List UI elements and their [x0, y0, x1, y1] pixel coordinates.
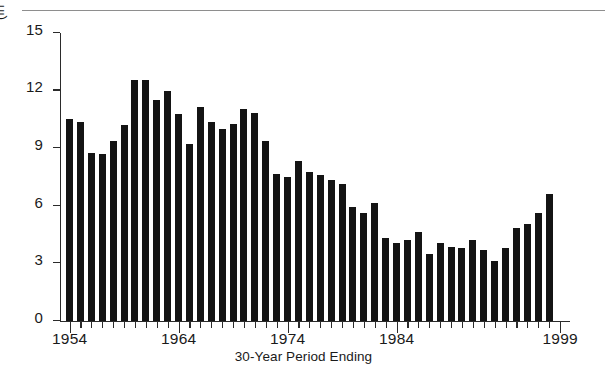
x-axis-label-1999: 1999 [543, 330, 578, 347]
x-axis-tick-labels: 19541964197419841999 [0, 0, 607, 368]
x-axis-label-1964: 1964 [161, 330, 196, 347]
x-axis-label-1984: 1984 [379, 330, 414, 347]
equity-risk-premium-chart: 03691215 19541964197419841999 30-Year Pe… [0, 0, 607, 368]
x-axis-label-1954: 1954 [52, 330, 87, 347]
x-axis-label-1974: 1974 [270, 330, 305, 347]
x-axis-title: 30-Year Period Ending [0, 349, 607, 364]
